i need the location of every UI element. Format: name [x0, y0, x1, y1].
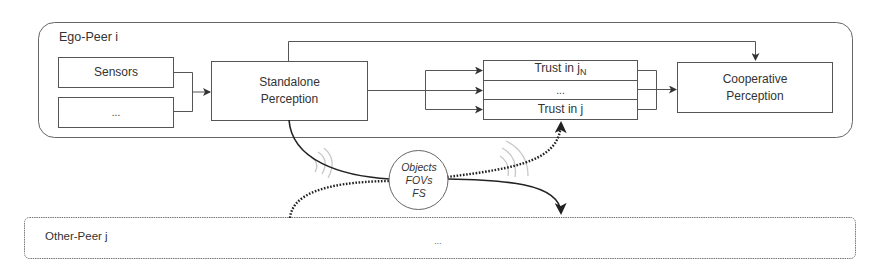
- sensors-label: Sensors: [58, 57, 174, 88]
- exchange-label: Objects FOVs FS: [389, 152, 449, 208]
- other-peer-content: ...: [434, 236, 442, 246]
- trust-ellipsis-text: ...: [556, 82, 564, 99]
- other-inputs-label: ...: [58, 97, 174, 128]
- ego-peer-title: Ego-Peer i: [59, 30, 118, 44]
- diagram-canvas: [0, 0, 889, 270]
- standalone-perception-label: Standalone Perception: [211, 61, 368, 121]
- other-peer-title: Other-Peer j: [45, 230, 108, 242]
- other-inputs-text: ...: [112, 104, 120, 121]
- receive-flow-curve: [290, 181, 389, 218]
- cooperative-line2: Perception: [726, 88, 783, 105]
- trust-row-jn: Trust in jN: [483, 60, 638, 81]
- trust-jn-subscript: N: [580, 67, 587, 77]
- cooperative-perception-label: Cooperative Perception: [677, 62, 833, 113]
- send-flow-curve: [289, 120, 390, 179]
- exchange-fs: FS: [412, 187, 425, 200]
- trust-row-j: Trust in j: [483, 99, 638, 120]
- cooperative-line1: Cooperative: [723, 71, 788, 88]
- standalone-line1: Standalone: [259, 74, 320, 91]
- exchange-objects: Objects: [401, 161, 437, 174]
- sensors-text: Sensors: [94, 64, 138, 81]
- trust-jn-prefix: Trust in j: [534, 61, 580, 75]
- signal-icon-right: [500, 141, 528, 177]
- standalone-line2: Perception: [261, 91, 318, 108]
- trust-row-ellipsis: ...: [483, 80, 638, 100]
- trust-jn-text: Trust in jN: [534, 60, 586, 81]
- exchange-fovs: FOVs: [406, 174, 433, 187]
- trust-j-text: Trust in j: [538, 101, 584, 118]
